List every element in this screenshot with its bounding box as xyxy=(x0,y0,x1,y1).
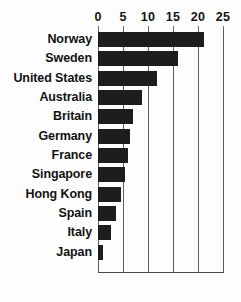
bar-spain xyxy=(98,206,116,221)
category-label-hong-kong: Hong Kong xyxy=(0,186,92,202)
bar-norway xyxy=(98,32,204,47)
bar-row: Britain xyxy=(0,109,241,124)
bar-britain xyxy=(98,109,133,124)
bar-row: Japan xyxy=(0,245,241,260)
bar-germany xyxy=(98,129,130,144)
category-label-singapore: Singapore xyxy=(0,166,92,182)
bar-row: Hong Kong xyxy=(0,187,241,202)
bar-hong-kong xyxy=(98,187,121,202)
category-label-france: France xyxy=(0,147,92,163)
bar-row: Italy xyxy=(0,225,241,240)
bar-australia xyxy=(98,90,142,105)
category-label-germany: Germany xyxy=(0,128,92,144)
bar-italy xyxy=(98,225,111,240)
bar-row: United States xyxy=(0,71,241,86)
bar-row: Norway xyxy=(0,32,241,47)
bar-united-states xyxy=(98,71,157,86)
bar-france xyxy=(98,148,128,163)
category-label-spain: Spain xyxy=(0,205,92,221)
category-label-australia: Australia xyxy=(0,89,92,105)
category-label-united-states: United States xyxy=(0,70,92,86)
bar-row: Singapore xyxy=(0,167,241,182)
category-label-japan: Japan xyxy=(0,244,92,260)
bar-singapore xyxy=(98,167,125,182)
bar-chart: 0510152025 NorwaySwedenUnited StatesAust… xyxy=(0,0,241,302)
category-label-italy: Italy xyxy=(0,224,92,240)
bar-row: Spain xyxy=(0,206,241,221)
bar-row: Sweden xyxy=(0,51,241,66)
bar-row: France xyxy=(0,148,241,163)
bar-rows: NorwaySwedenUnited StatesAustraliaBritai… xyxy=(0,0,241,302)
bar-row: Australia xyxy=(0,90,241,105)
category-label-norway: Norway xyxy=(0,31,92,47)
bar-row: Germany xyxy=(0,129,241,144)
category-label-britain: Britain xyxy=(0,108,92,124)
category-label-sweden: Sweden xyxy=(0,50,92,66)
bar-japan xyxy=(98,245,103,260)
bar-sweden xyxy=(98,51,178,66)
